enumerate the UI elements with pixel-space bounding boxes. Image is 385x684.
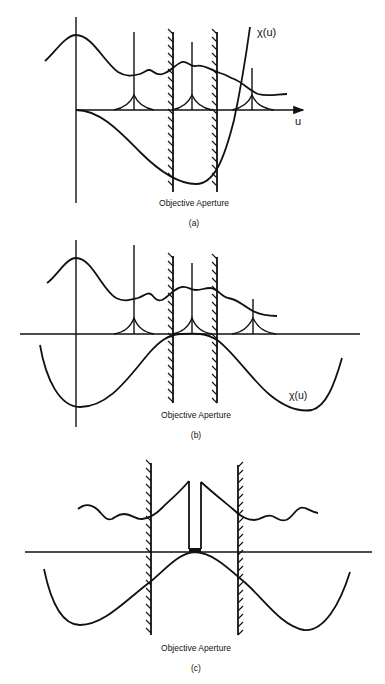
panel-b: χ(u) Objective Aperture (b) [20,240,360,440]
panel-a: u χ(u) Objective Aperture (a) [45,17,303,228]
panel-b-aperture-right [212,254,217,403]
aperture-hatch-mark [238,462,243,467]
panel-c-aperture-left [146,460,151,635]
panel-c-spectrum-left [78,481,189,519]
aperture-hatch-mark [168,29,173,34]
panel-a-chi-label: χ(u) [257,26,276,38]
panel-b-aperture-label: Objective Aperture [161,410,231,420]
aperture-hatch-mark [212,29,217,34]
panel-c-chi-curve [44,552,350,630]
panel-b-caption: (b) [191,430,202,440]
aperture-hatch-mark [212,254,217,259]
panel-c: Objective Aperture (c) [25,460,372,673]
aperture-hatch-mark [146,460,151,465]
panel-c-aperture-label: Objective Aperture [161,643,231,653]
panel-a-aperture-label: Objective Aperture [159,198,229,208]
panel-c-aperture-right [238,462,243,635]
panel-b-spike-lobes [232,318,276,334]
panel-a-caption: (a) [189,218,200,228]
panel-a-u-axis-label: u [295,115,301,127]
panel-b-chi-label: χ(u) [289,389,307,401]
aperture-hatch-mark [168,253,173,258]
panel-c-caption: (c) [191,663,201,673]
panel-c-spectrum-right [201,482,318,521]
panel-a-chi-curve [76,27,250,184]
diffraction-aperture-figure: u χ(u) Objective Aperture (a) χ(u) [0,0,385,684]
panel-b-aperture-left [168,253,173,403]
panel-a-spectrum-curve [45,35,287,95]
panel-b-spectrum-curve [47,258,277,316]
